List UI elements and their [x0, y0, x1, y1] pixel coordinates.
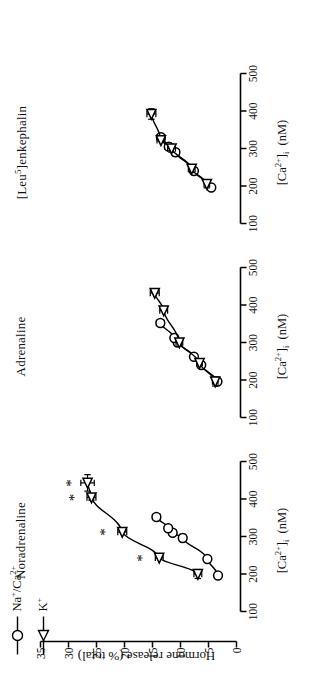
panel-noradrenaline: Noradrenaline **** 100200300400500 [Ca2+…: [0, 447, 315, 633]
x-tick-label: 100: [246, 214, 258, 231]
series-na-ca: [152, 512, 222, 579]
significance-asterisk: *: [62, 479, 78, 487]
x-tick-label: 300: [246, 527, 258, 544]
chart-svg: [40, 253, 270, 417]
x-tick-label: 200: [246, 371, 258, 388]
chart-svg: ****: [40, 447, 270, 611]
data-point-circle: [163, 523, 172, 532]
chart-svg: [40, 59, 270, 223]
x-axis-label: [Ca2+]i (nM): [272, 253, 291, 439]
x-tick-label: 300: [246, 333, 258, 350]
data-point-circle: [178, 533, 187, 542]
significance-asterisk: *: [97, 528, 113, 536]
panel-title: [Leu5]enkephalin: [12, 59, 29, 245]
x-tick-label: 400: [246, 490, 258, 507]
x-tick-label: 500: [246, 64, 258, 81]
x-tick-label: 400: [246, 296, 258, 313]
x-tick-labels: 100200300400500: [246, 461, 262, 611]
x-tick-labels: 100200300400500: [246, 267, 262, 417]
significance-asterisk: *: [134, 554, 150, 562]
plot-area: ****: [40, 461, 236, 611]
x-tick-label: 400: [246, 102, 258, 119]
panel-leu-enkephalin: [Leu5]enkephalin 100200300400500 [Ca2+]i…: [0, 59, 315, 245]
figure-canvas: Na+/Ca2+ K+ 05101520253035 Hormone relea…: [0, 0, 315, 689]
x-tick-label: 200: [246, 565, 258, 582]
x-axis-label: [Ca2+]i (nM): [272, 447, 291, 633]
x-tick-label: 200: [246, 177, 258, 194]
x-tick-label: 300: [246, 139, 258, 156]
significance-asterisk: *: [66, 493, 82, 501]
x-tick-labels: 100200300400500: [246, 73, 262, 223]
x-tick-label: 500: [246, 452, 258, 469]
x-tick-label: 100: [246, 408, 258, 425]
series-k: ****: [62, 474, 202, 579]
data-point-circle: [202, 554, 211, 563]
y-axis-label: Hormone release (% total): [36, 647, 256, 663]
x-tick-label: 100: [246, 602, 258, 619]
plot-area: [40, 267, 236, 417]
panel-title: Adrenaline: [12, 253, 28, 439]
figure-rotation-wrapper: Na+/Ca2+ K+ 05101520253035 Hormone relea…: [0, 0, 315, 689]
panel-adrenaline: Adrenaline 100200300400500 [Ca2+]i (nM): [0, 253, 315, 439]
plot-area: [40, 73, 236, 223]
series-k: [150, 288, 220, 386]
y-axis: 05101520253035 Hormone release (% total): [0, 633, 315, 689]
x-axis-label: [Ca2+]i (nM): [272, 59, 291, 245]
data-point-circle: [213, 571, 222, 580]
x-tick-label: 500: [246, 258, 258, 275]
panel-title: Noradrenaline: [12, 447, 28, 633]
data-point-circle: [152, 512, 161, 521]
data-point-circle: [155, 318, 164, 327]
